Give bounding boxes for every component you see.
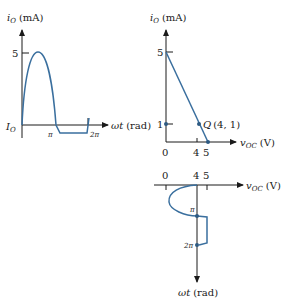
right-top-x-axis-label: vOC(V) bbox=[240, 137, 275, 150]
right-top-plot: iO(mA) 5 1 0 4 5 Q(4, 1) vOC(V) bbox=[150, 12, 275, 158]
right-bottom-x-tick-5-label: 5 bbox=[203, 170, 209, 181]
q-point bbox=[197, 122, 201, 126]
right-top-x-tick-5-label: 5 bbox=[203, 147, 209, 158]
left-x-tick-2pi-label: 2π bbox=[89, 131, 99, 139]
right-bottom-x-tick-4-label: 4 bbox=[193, 170, 199, 181]
right-top-x-tick-4-label: 4 bbox=[193, 147, 199, 158]
load-line bbox=[166, 52, 208, 142]
left-x-axis-label: ωt(rad) bbox=[111, 120, 151, 131]
left-x-tick-pi-label: π bbox=[47, 131, 53, 139]
left-plot: iO(mA) 5 IO π 2π ωt(rad) bbox=[5, 12, 151, 139]
y-1-point bbox=[164, 122, 168, 126]
right-top-y-tick-5-label: 5 bbox=[157, 47, 163, 58]
right-bottom-y-tick-2pi-label: 2π bbox=[183, 242, 193, 250]
right-top-x-tick-0-label: 0 bbox=[162, 147, 168, 158]
right-top-y-tick-1-label: 1 bbox=[157, 119, 163, 130]
right-bottom-x-axis-label: vOC(V) bbox=[246, 180, 281, 193]
right-top-y-axis-label: iO(mA) bbox=[150, 12, 187, 25]
right-bottom-voltage-curve bbox=[169, 185, 207, 245]
right-bottom-y-tick-pi-label: π bbox=[189, 206, 195, 214]
left-y-tick-5-label: 5 bbox=[12, 48, 18, 59]
right-bottom-plot: 0 4 5 vOC(V) π 2π ωt(rad) bbox=[154, 170, 281, 298]
pi-point bbox=[195, 214, 199, 218]
left-y-axis-label: iO(mA) bbox=[7, 12, 44, 25]
diagram-canvas: iO(mA) 5 IO π 2π ωt(rad) iO(mA) 5 1 bbox=[0, 0, 291, 301]
2pi-point bbox=[195, 243, 199, 247]
right-bottom-y-axis-label: ωt(rad) bbox=[178, 287, 218, 298]
x-5-point bbox=[206, 140, 210, 144]
q-point-label: Q(4, 1) bbox=[203, 119, 240, 130]
left-output-curve bbox=[22, 52, 89, 133]
right-bottom-x-tick-0-label: 0 bbox=[162, 170, 168, 181]
left-origin-label: IO bbox=[5, 121, 16, 134]
